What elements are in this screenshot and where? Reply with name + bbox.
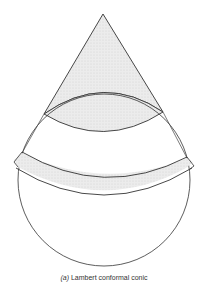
caption-label: (a) — [60, 274, 69, 281]
lambert-conformal-conic-diagram — [0, 0, 208, 287]
figure-caption: (a) Lambert conformal conic — [0, 274, 208, 281]
conic-band-region — [14, 153, 193, 190]
cone-right-side-extension — [163, 112, 187, 158]
cone-left-side-extension — [22, 114, 44, 153]
caption-text: Lambert conformal conic — [71, 274, 148, 281]
band-right-end-2 — [190, 166, 194, 169]
